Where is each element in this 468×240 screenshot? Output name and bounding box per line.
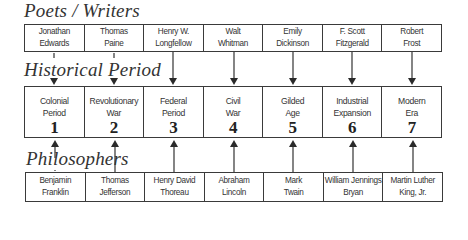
poet-second-line: Longfellow [155,38,191,50]
philosopher-first-line: Abraham [218,175,249,187]
poet-cell: JonathanEdwards [25,25,85,51]
period-first-line: Revolutionary [90,95,139,107]
philosopher-second-line: Lincoln [222,187,246,199]
poet-cell: WaltWhitman [204,25,264,51]
poet-cell: EmilyDickinson [263,25,323,51]
philosopher-first-line: Benjamin [39,175,71,187]
philosopher-first-line: Thomas [101,175,129,187]
poet-cell: Henry W.Longfellow [144,25,204,51]
poet-second-line: Edwards [39,38,69,50]
period-cell: ColonialPeriod1 [25,87,85,137]
poet-second-line: Frost [403,38,420,50]
philosopher-cell: William JenningsBryan [324,173,384,201]
poet-cell: RobertFrost [382,25,441,51]
period-number: 1 [50,120,58,136]
period-first-line: Gilded [281,95,304,107]
poet-first-line: Walt [226,26,241,38]
philosopher-cell: BenjaminFranklin [26,173,86,201]
period-cell: CivilWar4 [204,87,264,137]
philosopher-cell: ThomasJefferson [86,173,146,201]
poet-first-line: Jonathan [39,26,70,38]
period-first-line: Colonial [40,95,69,107]
philosopher-first-line: Mark [285,175,302,187]
period-first-line: Industrial [336,95,368,107]
period-number: 4 [229,120,237,136]
poet-first-line: F. Scott [340,26,365,38]
period-number: 7 [408,120,416,136]
period-cell: ModernEra7 [382,87,441,137]
poet-first-line: Henry W. [158,26,189,38]
poet-first-line: Thomas [100,26,128,38]
poet-cell: F. ScottFitzgerald [323,25,383,51]
philosopher-first-line: Henry David [154,175,196,187]
period-cell: IndustrialExpansion6 [323,87,383,137]
period-cell: RevolutionaryWar2 [85,87,145,137]
period-cell: FederalPeriod3 [144,87,204,137]
philosopher-second-line: Twain [284,187,304,199]
poet-first-line: Emily [283,26,302,38]
period-cell: GildedAge5 [263,87,323,137]
philosopher-second-line: Jefferson [99,187,130,199]
philosopher-cell: MarkTwain [264,173,324,201]
philosopher-second-line: King, Jr. [399,187,426,199]
period-number: 6 [348,120,356,136]
philosophers-row: BenjaminFranklin ThomasJefferson Henry D… [25,172,443,202]
poet-second-line: Fitzgerald [336,38,369,50]
philosopher-second-line: Bryan [343,187,363,199]
poet-cell: ThomasPaine [85,25,145,51]
poet-second-line: Whitman [218,38,248,50]
period-first-line: Modern [398,95,425,107]
philosopher-second-line: Franklin [42,187,69,199]
philosopher-cell: Henry DavidThoreau [145,173,205,201]
period-first-line: Civil [226,95,241,107]
period-number: 5 [289,120,297,136]
poet-second-line: Dickinson [276,38,309,50]
poet-first-line: Robert [400,26,423,38]
period-first-line: Federal [160,95,187,107]
philosopher-second-line: Thoreau [160,187,188,199]
philosopher-first-line: Martin Luther [391,175,435,187]
poet-second-line: Paine [104,38,123,50]
historical-period-row: ColonialPeriod1 RevolutionaryWar2 Federa… [24,86,442,138]
philosopher-cell: AbrahamLincoln [205,173,265,201]
philosopher-cell: Martin LutherKing, Jr. [383,173,442,201]
philosopher-first-line: William Jennings [325,175,382,187]
poets-writers-row: JonathanEdwards ThomasPaine Henry W.Long… [24,24,442,52]
period-number: 3 [169,120,177,136]
period-number: 2 [110,120,118,136]
